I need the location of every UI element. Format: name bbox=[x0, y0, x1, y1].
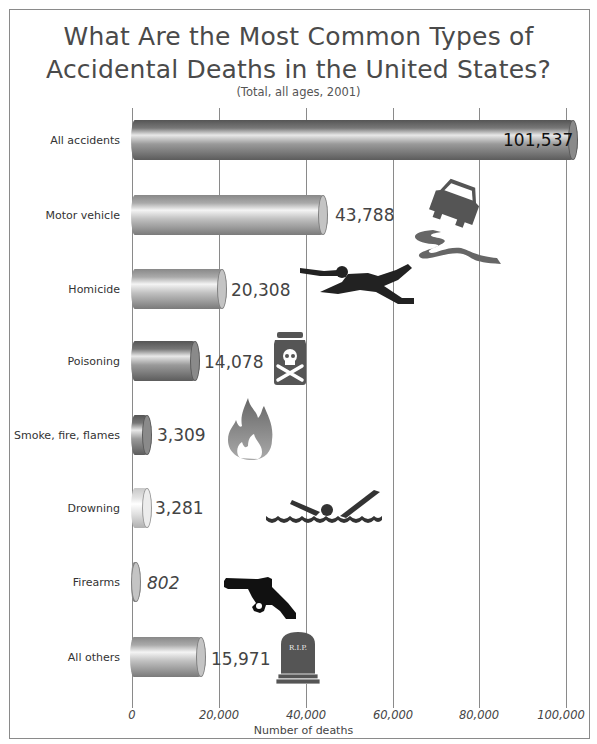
x-tick-label: 40,000 bbox=[286, 708, 326, 722]
gridline-100000 bbox=[566, 108, 567, 708]
category-label: Motor vehicle bbox=[46, 209, 120, 222]
value-label: 3,309 bbox=[157, 425, 206, 445]
value-label: 3,281 bbox=[155, 498, 204, 518]
x-tick-label: 20,000 bbox=[199, 708, 239, 722]
poison-jar-icon bbox=[272, 330, 308, 386]
x-tick-label: 60,000 bbox=[373, 708, 413, 722]
x-tick-label: 100,000 bbox=[537, 708, 585, 722]
bar-drowning bbox=[131, 488, 152, 528]
drowning-swimmer-icon bbox=[264, 490, 384, 524]
category-label: Homicide bbox=[68, 283, 120, 296]
bar-motor-vehicle bbox=[131, 195, 328, 235]
value-label: 14,078 bbox=[204, 352, 263, 372]
x-axis-label: Number of deaths bbox=[0, 724, 597, 737]
value-label: 802 bbox=[147, 573, 179, 593]
falling-person-icon bbox=[298, 262, 416, 310]
revolver-icon bbox=[222, 575, 300, 621]
bar-smoke-fire-flames bbox=[131, 415, 152, 455]
x-tick-label: 0 bbox=[128, 708, 135, 722]
bar-poisoning bbox=[131, 341, 200, 381]
category-label: Firearms bbox=[73, 576, 120, 589]
category-label: All others bbox=[68, 651, 120, 664]
value-label: 20,308 bbox=[231, 280, 290, 300]
value-label: 101,537 bbox=[503, 130, 573, 150]
flame-icon bbox=[226, 396, 276, 462]
tombstone-text: R.I.P. bbox=[289, 644, 307, 652]
category-label: All accidents bbox=[50, 134, 120, 147]
chart-title-line1: What Are the Most Common Types of bbox=[0, 22, 597, 51]
value-label: 43,788 bbox=[335, 205, 394, 225]
tombstone-icon: R.I.P. bbox=[275, 630, 321, 684]
chart-title-line2: Accidental Deaths in the United States? bbox=[0, 55, 597, 84]
bar-homicide bbox=[131, 269, 227, 309]
bar-all-others bbox=[130, 637, 206, 677]
category-label: Drowning bbox=[68, 502, 120, 515]
bar-firearms bbox=[131, 562, 141, 602]
value-label: 15,971 bbox=[211, 649, 270, 669]
x-tick-label: 80,000 bbox=[459, 708, 499, 722]
category-label: Smoke, fire, flames bbox=[14, 429, 120, 442]
gridline-60000 bbox=[393, 108, 394, 708]
skidding-car-icon bbox=[405, 178, 505, 270]
category-label: Poisoning bbox=[68, 355, 120, 368]
chart-subtitle: (Total, all ages, 2001) bbox=[0, 85, 597, 99]
